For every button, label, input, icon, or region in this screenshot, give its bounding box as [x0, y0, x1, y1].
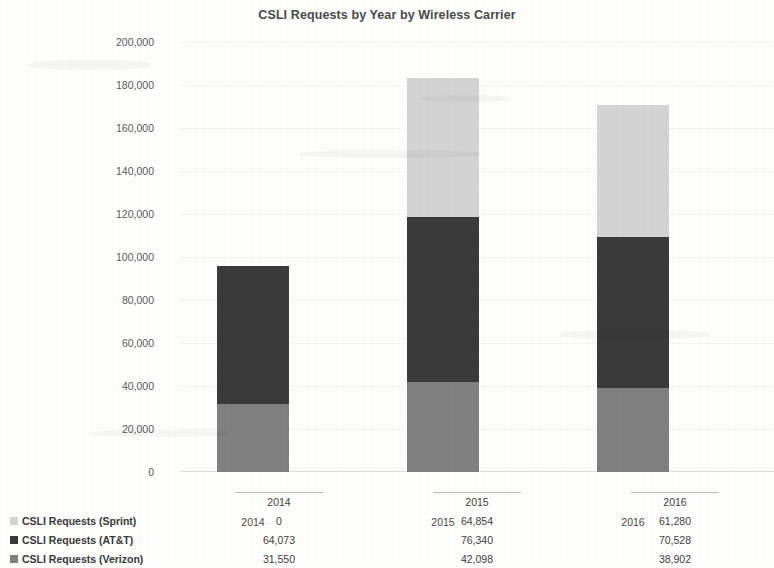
bar-segment — [597, 237, 669, 389]
value-att-2014: 64,073 — [180, 534, 378, 546]
bar-segment — [407, 382, 479, 473]
y-axis-tick-label: 40,000 — [0, 380, 172, 392]
column-header-2: 2016 — [576, 496, 774, 508]
y-axis-tick-label: 120,000 — [0, 208, 172, 220]
y-axis-tick-label: 100,000 — [0, 251, 172, 263]
plot-area: 201420152016 — [180, 42, 774, 472]
value-verizon-2016: 38,902 — [576, 553, 774, 565]
chart-title: CSLI Requests by Year by Wireless Carrie… — [0, 8, 774, 22]
table-row: CSLI Requests (Verizon) 31,550 42,098 38… — [0, 549, 774, 568]
table-row: CSLI Requests (Sprint) 0 64,854 61,280 — [0, 511, 774, 530]
value-sprint-2016: 61,280 — [576, 515, 774, 527]
y-axis-tick-label: 200,000 — [0, 36, 172, 48]
y-axis-tick-label: 60,000 — [0, 337, 172, 349]
bar-segment — [597, 388, 669, 472]
bar-segment — [217, 266, 289, 404]
bar-2015 — [407, 42, 479, 472]
y-axis-tick-label: 140,000 — [0, 165, 172, 177]
y-axis-tick-label: 80,000 — [0, 294, 172, 306]
y-axis-tick-label: 180,000 — [0, 79, 172, 91]
legend-item-sprint: CSLI Requests (Sprint) — [0, 515, 180, 527]
bar-2014 — [217, 42, 289, 472]
value-verizon-2015: 42,098 — [378, 553, 576, 565]
bar-segment — [407, 78, 479, 217]
table-row: CSLI Requests (AT&T) 64,073 76,340 70,52… — [0, 530, 774, 549]
legend-label-att: CSLI Requests (AT&T) — [22, 534, 133, 546]
y-axis-tick-label: 20,000 — [0, 423, 172, 435]
column-separator — [235, 492, 322, 493]
column-header-1: 2015 — [378, 496, 576, 508]
column-separator — [433, 492, 520, 493]
bar-2016 — [597, 42, 669, 472]
y-axis-tick-label: 0 — [0, 466, 172, 478]
bar-segment — [217, 404, 289, 472]
legend-label-sprint: CSLI Requests (Sprint) — [22, 515, 136, 527]
legend-swatch-att-icon — [10, 536, 18, 544]
legend-item-verizon: CSLI Requests (Verizon) — [0, 553, 180, 565]
column-separator — [631, 492, 718, 493]
column-header-0: 2014 — [180, 496, 378, 508]
value-att-2016: 70,528 — [576, 534, 774, 546]
bar-segment — [597, 105, 669, 237]
legend-swatch-verizon-icon — [10, 555, 18, 563]
table-header-row: 2014 2015 2016 — [0, 492, 774, 511]
data-table: 2014 2015 2016 CSLI Requests (Sprint) 0 … — [0, 492, 774, 568]
y-axis: 200,000180,000160,000140,000120,000100,0… — [0, 42, 172, 472]
value-verizon-2014: 31,550 — [180, 553, 378, 565]
legend-item-att: CSLI Requests (AT&T) — [0, 534, 180, 546]
bar-segment — [407, 217, 479, 381]
value-att-2015: 76,340 — [378, 534, 576, 546]
value-sprint-2014: 0 — [180, 515, 378, 527]
legend-swatch-sprint-icon — [10, 517, 18, 525]
value-sprint-2015: 64,854 — [378, 515, 576, 527]
legend-label-verizon: CSLI Requests (Verizon) — [22, 553, 143, 565]
y-axis-tick-label: 160,000 — [0, 122, 172, 134]
